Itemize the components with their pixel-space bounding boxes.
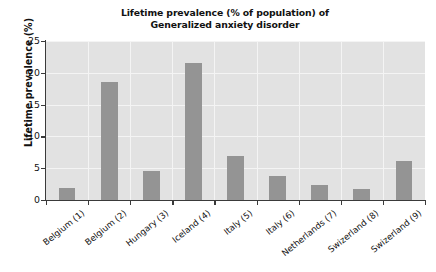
gridline-vertical xyxy=(214,41,215,200)
chart-title-line-1: Lifetime prevalence (% of population) of xyxy=(60,7,390,19)
gridline-horizontal xyxy=(46,73,425,74)
y-tick-label-wrap: 10 xyxy=(0,130,40,142)
plot-area xyxy=(46,41,425,200)
y-tick-label-wrap: 20 xyxy=(0,67,40,79)
chart-title: Lifetime prevalence (% of population) of… xyxy=(60,7,390,31)
bar xyxy=(59,188,76,200)
gridline-vertical xyxy=(88,41,89,200)
gridline-vertical xyxy=(341,41,342,200)
y-tick-mark xyxy=(41,136,45,137)
bar xyxy=(396,161,413,200)
x-tick-label: Belgium (1) xyxy=(41,208,86,247)
y-tick-mark xyxy=(41,168,45,169)
y-tick-mark xyxy=(41,200,45,201)
y-tick-label: 20 xyxy=(4,67,40,78)
gridline-vertical xyxy=(130,41,131,200)
x-tick-mark xyxy=(299,201,300,205)
x-tick-label: Iceland (4) xyxy=(170,208,212,245)
x-tick-mark xyxy=(257,201,258,205)
y-tick-label-wrap: 25 xyxy=(0,35,40,47)
x-tick-mark xyxy=(341,201,342,205)
bar-chart: Lifetime prevalence (% of population) of… xyxy=(0,0,436,272)
x-axis-line xyxy=(45,200,426,201)
y-tick-label-wrap: 0 xyxy=(0,194,40,206)
x-tick-mark xyxy=(46,201,47,205)
bar xyxy=(143,171,160,200)
gridline-vertical xyxy=(172,41,173,200)
x-tick-label: Italy (5) xyxy=(222,208,254,237)
bar xyxy=(185,63,202,200)
y-tick-mark xyxy=(41,105,45,106)
x-tick-mark xyxy=(214,201,215,205)
gridline-vertical xyxy=(299,41,300,200)
x-tick-mark xyxy=(383,201,384,205)
bar xyxy=(311,185,328,200)
y-tick-label-wrap: 5 xyxy=(0,162,40,174)
y-tick-label-wrap: 15 xyxy=(0,99,40,111)
bar xyxy=(227,156,244,200)
x-tick-mark xyxy=(172,201,173,205)
gridline-vertical xyxy=(383,41,384,200)
bar xyxy=(269,176,286,200)
x-tick-mark xyxy=(88,201,89,205)
y-tick-label: 5 xyxy=(4,162,40,173)
y-tick-label: 0 xyxy=(4,194,40,205)
x-tick-label: Italy (6) xyxy=(264,208,296,237)
x-tick-label: Belgium (2) xyxy=(83,208,128,247)
gridline-horizontal xyxy=(46,41,425,42)
y-tick-mark xyxy=(41,41,45,42)
bar xyxy=(353,189,370,200)
x-tick-label: Hungary (3) xyxy=(124,208,170,248)
chart-title-line-2: Generalized anxiety disorder xyxy=(60,19,390,31)
gridline-vertical xyxy=(257,41,258,200)
x-tick-mark xyxy=(425,201,426,205)
y-axis-line xyxy=(45,40,46,201)
bar xyxy=(101,82,118,200)
y-tick-label: 25 xyxy=(4,35,40,46)
y-tick-label: 10 xyxy=(4,130,40,141)
y-tick-label: 15 xyxy=(4,99,40,110)
x-tick-mark xyxy=(130,201,131,205)
y-tick-mark xyxy=(41,73,45,74)
